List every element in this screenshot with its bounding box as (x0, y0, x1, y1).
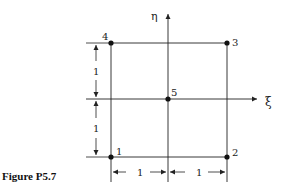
node-3 (224, 40, 229, 45)
node-label-1: 1 (116, 146, 122, 157)
figure-caption: Figure P5.7 (2, 170, 56, 182)
xi-axis-label: ξ (265, 95, 272, 109)
dim-left-upper: 1 (93, 66, 99, 77)
dim-bottom-left: 1 (137, 167, 143, 178)
node-label-5: 5 (171, 87, 177, 98)
dim-left-lower: 1 (93, 123, 99, 134)
eta-axis-label: η (151, 10, 158, 23)
element-boundary (111, 43, 227, 182)
element-diagram: η ξ 1 1 1 1 1 2 3 4 5 (0, 0, 286, 196)
node-5 (165, 96, 170, 101)
node-label-3: 3 (232, 37, 238, 48)
node-label-4: 4 (102, 31, 108, 42)
node-2 (224, 154, 229, 159)
node-label-2: 2 (232, 147, 238, 158)
node-1 (108, 154, 113, 159)
dim-bottom-right: 1 (196, 167, 202, 178)
node-4 (108, 40, 113, 45)
